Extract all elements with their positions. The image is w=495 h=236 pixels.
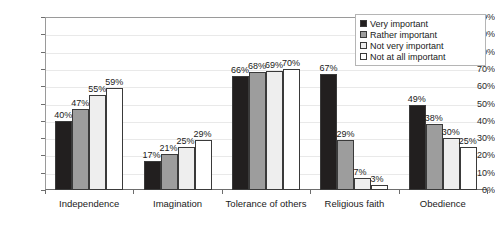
bar <box>371 185 388 190</box>
bar <box>443 138 460 190</box>
bar <box>161 154 178 190</box>
bar-value-label: 29% <box>336 130 354 139</box>
bar-value-label: 47% <box>71 99 89 108</box>
bar-value-label: 59% <box>105 78 123 87</box>
bar-value-label: 49% <box>408 95 426 104</box>
bar <box>320 74 337 190</box>
bar-value-label: 3% <box>370 175 383 184</box>
x-axis-tick-mark <box>133 190 134 194</box>
legend-swatch-icon <box>360 42 367 49</box>
bar <box>249 72 266 190</box>
legend-item: Very important <box>360 18 481 29</box>
legend-item: Not at all important <box>360 51 481 62</box>
bar <box>426 124 443 190</box>
legend-label: Very important <box>370 19 428 29</box>
bar-value-label: 40% <box>54 111 72 120</box>
x-axis-category-label: Imagination <box>133 198 221 209</box>
legend-item: Rather important <box>360 29 481 40</box>
x-axis-tick-mark <box>45 190 46 194</box>
x-axis-category-label: Tolerance of others <box>222 198 310 209</box>
bar-group: 66%68%69%70% <box>222 17 310 190</box>
x-axis-category-label: Religious faith <box>310 198 398 209</box>
bar-chart-figure: 0%10%20%30%40%50%60%70%80%90%100% 40%47%… <box>0 0 495 236</box>
bar <box>283 69 300 190</box>
bar <box>460 147 477 190</box>
bar <box>337 140 354 190</box>
bar <box>195 140 212 190</box>
x-axis-tick-mark <box>222 190 223 194</box>
bar-value-label: 68% <box>248 62 266 71</box>
bar-value-label: 55% <box>88 85 106 94</box>
bar-value-label: 7% <box>353 168 366 177</box>
bar-value-label: 66% <box>231 66 249 75</box>
bar-value-label: 21% <box>160 144 178 153</box>
bar-value-label: 29% <box>194 130 212 139</box>
legend-swatch-icon <box>360 20 367 27</box>
legend-item: Not very important <box>360 40 481 51</box>
bar-value-label: 38% <box>425 114 443 123</box>
x-axis-category-label: Independence <box>45 198 133 209</box>
bar-value-label: 70% <box>282 59 300 68</box>
x-axis-category-label: Obedience <box>399 198 487 209</box>
bar-value-label: 69% <box>265 61 283 70</box>
bar-value-label: 25% <box>177 137 195 146</box>
legend-swatch-icon <box>360 53 367 60</box>
bar <box>409 105 426 190</box>
bar-group: 17%21%25%29% <box>133 17 221 190</box>
legend-swatch-icon <box>360 31 367 38</box>
bar-value-label: 25% <box>459 137 477 146</box>
bar <box>266 71 283 190</box>
x-axis-tick-mark <box>399 190 400 194</box>
x-axis-tick-mark <box>487 190 488 194</box>
bar <box>178 147 195 190</box>
legend-label: Rather important <box>370 30 437 40</box>
bar-value-label: 67% <box>319 64 337 73</box>
bar-value-label: 17% <box>143 151 161 160</box>
bar <box>89 95 106 190</box>
bar <box>232 76 249 190</box>
legend-label: Not very important <box>370 41 444 51</box>
x-axis-tick-mark <box>310 190 311 194</box>
bar-group: 40%47%55%59% <box>45 17 133 190</box>
bar <box>144 161 161 190</box>
bar <box>354 178 371 190</box>
legend-label: Not at all important <box>370 52 446 62</box>
bar-value-label: 30% <box>442 128 460 137</box>
bar <box>72 109 89 190</box>
bar <box>106 88 123 190</box>
bar <box>55 121 72 190</box>
chart-legend: Very importantRather importantNot very i… <box>355 14 486 66</box>
